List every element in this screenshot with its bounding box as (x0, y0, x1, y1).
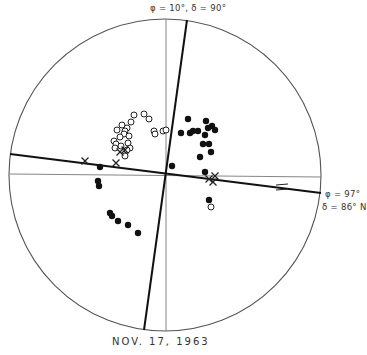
dilatation-point (163, 127, 169, 133)
compression-point (212, 127, 218, 133)
compression-point (202, 169, 208, 175)
compression-point (169, 163, 175, 169)
dilatation-point (131, 112, 137, 118)
compression-point (109, 213, 115, 219)
figure-caption: NOV. 17, 1963 (112, 336, 210, 347)
compression-point (195, 128, 201, 134)
compression-point (200, 141, 206, 147)
compression-point (115, 218, 121, 224)
nodal-plane-2-label-phi: φ = 97° (325, 189, 360, 199)
nodal-plane-1-label: φ = 10°, δ = 90° (150, 3, 226, 13)
dilatation-point (126, 133, 132, 139)
dilatation-point (128, 119, 134, 125)
nodal-plane-2-label-delta: δ = 86° N (322, 202, 367, 212)
compression-point (208, 149, 214, 155)
compression-point (178, 130, 184, 136)
compression-point (97, 164, 103, 170)
nodal-plane-2-line (10, 154, 321, 193)
compression-point (206, 197, 212, 203)
dilatation-point (114, 127, 120, 133)
dilatation-point (117, 134, 123, 140)
compression-point (197, 154, 203, 160)
diagram-frame (9, 19, 321, 331)
data-points (82, 111, 289, 236)
compression-point (185, 116, 191, 122)
compression-point (206, 141, 212, 147)
dilatation-point (208, 204, 214, 210)
dilatation-point (152, 131, 158, 137)
compression-point (205, 125, 211, 131)
compression-point (135, 230, 141, 236)
dilatation-point (141, 111, 147, 117)
cross-point (113, 160, 120, 167)
dilatation-point (122, 153, 128, 159)
dilatation-point (146, 116, 152, 122)
compression-point (96, 183, 102, 189)
compression-point (202, 132, 208, 138)
compression-point (125, 222, 131, 228)
compression-point (203, 118, 209, 124)
dilatation-point (112, 145, 118, 151)
